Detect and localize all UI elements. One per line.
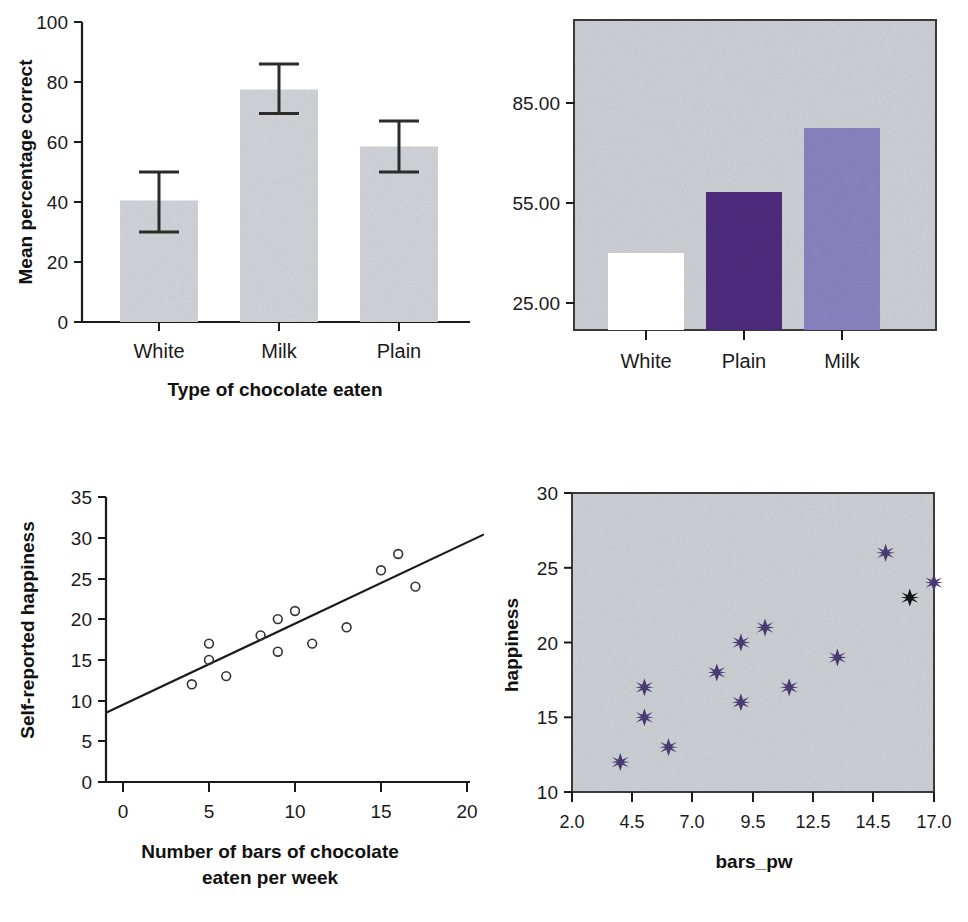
x-axis-ticks bbox=[646, 330, 842, 340]
bars-group bbox=[120, 90, 438, 323]
y-tick-label: 30 bbox=[71, 528, 92, 549]
x-category-label: Plain bbox=[377, 340, 421, 362]
y-tick-label: 80 bbox=[47, 72, 68, 93]
x-category-label: White bbox=[620, 350, 671, 372]
x-axis-category-labels: White Milk Plain bbox=[133, 340, 421, 362]
data-point bbox=[256, 631, 265, 640]
bar-milk bbox=[240, 90, 318, 323]
data-point bbox=[205, 639, 214, 648]
y-axis-tick-labels: 100 80 60 40 20 0 bbox=[36, 12, 68, 333]
y-tick-label: 30 bbox=[537, 483, 558, 504]
y-tick-label: 0 bbox=[81, 772, 92, 793]
x-tick-label: 5 bbox=[204, 801, 215, 822]
y-tick-label: 15 bbox=[537, 707, 558, 728]
x-axis-category-labels: White Plain Milk bbox=[620, 350, 860, 372]
y-axis-ticks bbox=[566, 103, 574, 303]
x-tick-label: 17.0 bbox=[916, 812, 951, 832]
y-tick-label: 10 bbox=[71, 691, 92, 712]
chart-panel-top-right: 85.00 55.00 25.00 White Plain Milk bbox=[484, 0, 968, 440]
scatter-regression-svg: 35 30 25 20 15 10 5 0 0 5 10 15 bbox=[0, 440, 484, 922]
y-axis-tick-labels: 35 30 25 20 15 10 5 0 bbox=[71, 487, 92, 793]
y-tick-label: 100 bbox=[36, 12, 68, 33]
y-tick-label: 20 bbox=[537, 633, 558, 654]
data-point bbox=[394, 550, 403, 559]
x-axis-tick-labels: 0 5 10 15 20 bbox=[118, 801, 478, 822]
y-axis-ticks bbox=[98, 497, 106, 782]
x-tick-label: 9.5 bbox=[740, 812, 765, 832]
x-tick-label: 7.0 bbox=[679, 812, 704, 832]
y-tick-label: 25 bbox=[71, 569, 92, 590]
x-category-label: Plain bbox=[722, 350, 766, 372]
x-axis-title-line1: Number of bars of chocolate bbox=[141, 841, 399, 862]
y-tick-label: 10 bbox=[537, 782, 558, 803]
y-axis-title: happiness bbox=[501, 598, 522, 692]
spss-bar-chart-svg: 85.00 55.00 25.00 White Plain Milk bbox=[484, 0, 968, 440]
x-tick-label: 0 bbox=[118, 801, 129, 822]
y-tick-label: 0 bbox=[57, 312, 68, 333]
y-axis-ticks bbox=[564, 493, 572, 792]
plot-background bbox=[572, 493, 934, 792]
chart-panel-top-left: 100 80 60 40 20 0 bbox=[0, 0, 484, 440]
y-tick-label: 20 bbox=[47, 252, 68, 273]
y-tick-label: 5 bbox=[81, 731, 92, 752]
x-tick-label: 10 bbox=[284, 801, 305, 822]
x-category-label: White bbox=[133, 340, 184, 362]
y-tick-label: 60 bbox=[47, 132, 68, 153]
y-tick-label: 85.00 bbox=[512, 93, 560, 114]
data-point bbox=[273, 615, 282, 624]
y-tick-label: 25.00 bbox=[512, 293, 560, 314]
chart-panel-bottom-left: 35 30 25 20 15 10 5 0 0 5 10 15 bbox=[0, 440, 484, 922]
figure-grid: 100 80 60 40 20 0 bbox=[0, 0, 968, 922]
x-category-label: Milk bbox=[261, 340, 298, 362]
x-tick-label: 2.0 bbox=[559, 812, 584, 832]
data-point bbox=[291, 607, 300, 616]
y-axis-title: Mean percentage correct bbox=[15, 59, 36, 285]
x-axis-tick-labels: 2.0 4.5 7.0 9.5 12.5 14.5 17.0 bbox=[559, 812, 951, 832]
x-tick-label: 20 bbox=[456, 801, 477, 822]
x-axis-title-line2: eaten per week bbox=[202, 867, 339, 888]
data-point bbox=[273, 647, 282, 656]
data-point bbox=[308, 639, 317, 648]
x-axis-ticks bbox=[159, 322, 399, 331]
spss-scatter-svg: 30 25 20 15 10 2.0 4.5 7.0 9.5 bbox=[484, 440, 968, 922]
regression-line bbox=[106, 534, 484, 712]
bar-chart-errorbars-svg: 100 80 60 40 20 0 bbox=[0, 0, 484, 440]
data-point bbox=[222, 672, 231, 681]
y-tick-label: 35 bbox=[71, 487, 92, 508]
x-axis-ticks bbox=[123, 782, 467, 792]
data-point bbox=[411, 582, 420, 591]
y-tick-label: 15 bbox=[71, 650, 92, 671]
bar-milk bbox=[804, 128, 880, 330]
x-category-label: Milk bbox=[824, 350, 861, 372]
y-axis-tick-labels: 85.00 55.00 25.00 bbox=[512, 93, 560, 314]
y-axis-ticks bbox=[74, 22, 82, 322]
data-point bbox=[377, 566, 386, 575]
chart-panel-bottom-right: 30 25 20 15 10 2.0 4.5 7.0 9.5 bbox=[484, 440, 968, 922]
x-tick-label: 14.5 bbox=[855, 812, 890, 832]
x-axis-title: Type of chocolate eaten bbox=[167, 379, 382, 400]
x-axis-ticks bbox=[572, 792, 934, 802]
x-axis-title: bars_pw bbox=[715, 851, 792, 872]
y-tick-label: 25 bbox=[537, 558, 558, 579]
data-point bbox=[187, 680, 196, 689]
x-tick-label: 12.5 bbox=[795, 812, 830, 832]
y-tick-label: 40 bbox=[47, 192, 68, 213]
x-tick-label: 4.5 bbox=[619, 812, 644, 832]
y-axis-tick-labels: 30 25 20 15 10 bbox=[537, 483, 558, 803]
y-axis-title: Self-reported happiness bbox=[17, 521, 38, 739]
y-tick-label: 20 bbox=[71, 609, 92, 630]
bar-white bbox=[608, 253, 684, 330]
y-tick-label: 55.00 bbox=[512, 193, 560, 214]
bar-plain bbox=[706, 192, 782, 330]
data-point bbox=[342, 623, 351, 632]
x-tick-label: 15 bbox=[370, 801, 391, 822]
